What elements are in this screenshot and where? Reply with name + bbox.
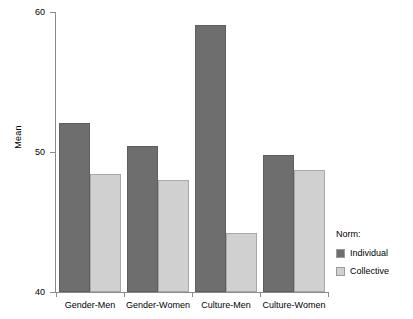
legend-swatch-icon <box>336 267 345 276</box>
bar-culture-men-collective <box>226 233 257 292</box>
x-tick-label: Gender-Men <box>56 300 124 310</box>
legend-item-individual[interactable]: Individual <box>336 248 413 258</box>
y-tick-label: 50 <box>5 148 45 157</box>
x-tick-label: Culture-Men <box>192 300 260 310</box>
y-tick-mark <box>50 12 55 13</box>
y-tick-label: 40 <box>5 288 45 297</box>
bar-gender-men-collective <box>90 174 121 292</box>
plot-area <box>56 12 328 292</box>
grouped-bar-chart: Mean 605040 Gender-MenGender-WomenCultur… <box>0 0 413 319</box>
legend-item-collective[interactable]: Collective <box>336 266 413 276</box>
legend-items: IndividualCollective <box>336 248 413 276</box>
bar-gender-men-individual <box>59 123 90 292</box>
x-tick-mark <box>260 292 261 297</box>
y-axis-title: Mean <box>13 107 23 167</box>
x-tick-mark <box>56 292 57 297</box>
legend-swatch-icon <box>336 249 345 258</box>
y-tick-mark <box>50 152 55 153</box>
bar-culture-women-collective <box>294 170 325 292</box>
bar-culture-men-individual <box>195 25 226 292</box>
y-tick-label: 60 <box>5 8 45 17</box>
bar-gender-women-collective <box>158 180 189 292</box>
x-tick-label: Culture-Women <box>260 300 328 310</box>
legend: Norm: IndividualCollective <box>336 229 413 284</box>
x-tick-mark <box>124 292 125 297</box>
x-tick-mark <box>192 292 193 297</box>
x-tick-label: Gender-Women <box>124 300 192 310</box>
bar-gender-women-individual <box>127 146 158 292</box>
legend-title: Norm: <box>336 229 413 239</box>
x-tick-mark <box>328 292 329 297</box>
bar-culture-women-individual <box>263 155 294 292</box>
legend-item-label: Collective <box>350 266 389 276</box>
legend-item-label: Individual <box>350 248 388 258</box>
